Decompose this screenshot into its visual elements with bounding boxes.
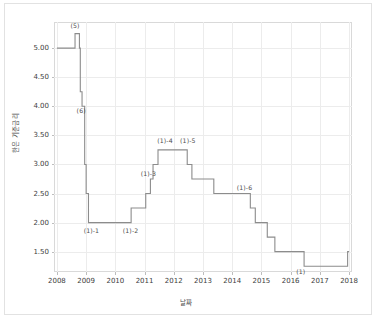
x-tick-mark bbox=[261, 272, 262, 275]
x-tick-label: 2016 bbox=[282, 277, 300, 285]
x-tick-mark bbox=[349, 272, 350, 275]
x-tick-mark bbox=[232, 272, 233, 275]
source-note: 자료출처 : 한국은행 bbox=[375, 0, 387, 2]
x-tick-label: 2011 bbox=[136, 277, 154, 285]
x-tick-label: 2014 bbox=[223, 277, 241, 285]
data-annotation-label: (1)-3 bbox=[141, 169, 156, 176]
data-annotation-label: (1)-5 bbox=[180, 137, 195, 144]
y-tick-label: 1.50 bbox=[33, 248, 49, 256]
x-tick-label: 2015 bbox=[253, 277, 271, 285]
data-annotation-label: (5) bbox=[70, 21, 79, 28]
y-tick-label: 5.00 bbox=[33, 44, 49, 52]
x-tick-mark bbox=[174, 272, 175, 275]
y-tick-label: 3.50 bbox=[33, 131, 49, 139]
chart-page: 자료출처 : 한국은행 한은 기준금리 날짜 1.502.002.503.003… bbox=[0, 0, 388, 329]
y-tick-label: 2.00 bbox=[33, 219, 49, 227]
y-tick-label: 4.00 bbox=[33, 102, 49, 110]
x-tick-label: 2010 bbox=[106, 277, 124, 285]
x-tick-mark bbox=[115, 272, 116, 275]
y-axis-title: 한은 기준금리 bbox=[10, 93, 20, 173]
x-tick-label: 2017 bbox=[311, 277, 329, 285]
x-tick-label: 2009 bbox=[77, 277, 95, 285]
y-tick-label: 4.50 bbox=[33, 73, 49, 81]
x-tick-mark bbox=[145, 272, 146, 275]
x-tick-label: 2018 bbox=[340, 277, 358, 285]
data-annotation-label: (1)-4 bbox=[157, 137, 172, 144]
y-tick-label: 3.00 bbox=[33, 160, 49, 168]
data-annotation-label: (1)-2 bbox=[123, 226, 138, 233]
y-tick-label: 2.50 bbox=[33, 190, 49, 198]
data-annotation-label: (1)-1 bbox=[84, 226, 99, 233]
x-tick-mark bbox=[320, 272, 321, 275]
x-tick-label: 2012 bbox=[165, 277, 183, 285]
x-tick-mark bbox=[291, 272, 292, 275]
data-annotation-label: (1) bbox=[296, 267, 305, 274]
series-path bbox=[57, 34, 349, 267]
x-tick-mark bbox=[86, 272, 87, 275]
series-line bbox=[54, 22, 352, 272]
x-tick-mark bbox=[203, 272, 204, 275]
data-annotation-label: (6) bbox=[77, 107, 86, 114]
x-tick-mark bbox=[57, 272, 58, 275]
data-annotation-label: (1)-6 bbox=[237, 183, 252, 190]
plot-area: 1.502.002.503.003.504.004.505.00 2008200… bbox=[54, 22, 352, 272]
x-tick-label: 2008 bbox=[48, 277, 66, 285]
x-axis-title: 날짜 bbox=[0, 297, 372, 307]
x-tick-label: 2013 bbox=[194, 277, 212, 285]
